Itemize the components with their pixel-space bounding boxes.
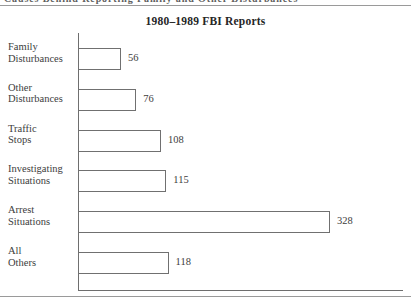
bar [78,130,161,152]
bar [78,252,169,274]
bar-category-label: FamilyDisturbances [8,41,74,64]
bar-category-label-line1: Family [8,41,38,52]
bar-category-label-line2: Stops [8,134,74,146]
bar-category-label: InvestigatingSituations [8,163,74,186]
bar-category-label: OtherDisturbances [8,82,74,105]
bar-category-label: TrafficStops [8,123,74,146]
bar-row: TrafficStops108 [0,130,411,152]
bar-row: InvestigatingSituations115 [0,170,411,192]
bar-value-label: 56 [128,52,139,63]
bar-category-label-line2: Situations [8,175,74,187]
bar-category-label-line2: Disturbances [8,53,74,65]
bar-chart: FamilyDisturbances56OtherDisturbances76T… [0,0,411,304]
bar-row: AllOthers118 [0,252,411,274]
bar-value-label: 118 [176,256,191,267]
bar-category-label-line1: Investigating [8,163,63,174]
bar [78,89,136,111]
bar-row: FamilyDisturbances56 [0,48,411,70]
bar-value-label: 108 [168,134,184,145]
bar-row: ArrestSituations328 [0,211,411,233]
bar-value-label: 115 [173,174,188,185]
bar [78,170,166,192]
bar-value-label: 328 [337,215,353,226]
bar [78,211,330,233]
bar-category-label-line2: Disturbances [8,93,74,105]
page-rule-bottom [0,296,411,297]
bar-category-label-line1: Traffic [8,123,37,134]
x-axis-line [78,290,403,291]
bar-value-label: 76 [143,93,154,104]
bar [78,48,121,70]
bar-category-label-line1: All [8,245,21,256]
bar-category-label: AllOthers [8,245,74,268]
bar-category-label-line2: Situations [8,216,74,228]
bar-category-label-line1: Arrest [8,204,34,215]
bar-row: OtherDisturbances76 [0,89,411,111]
bar-category-label-line1: Other [8,82,32,93]
bar-category-label-line2: Others [8,257,74,269]
bar-category-label: ArrestSituations [8,204,74,227]
